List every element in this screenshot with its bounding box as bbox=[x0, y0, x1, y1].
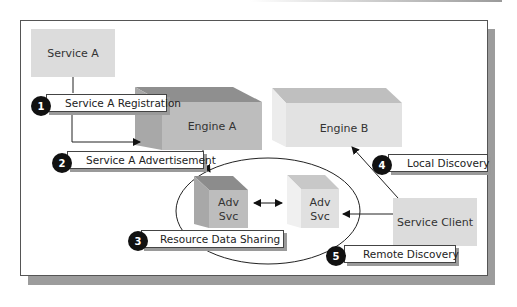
service-client-label: Service Client bbox=[397, 216, 473, 229]
step-3-label: Resource Data Sharing bbox=[160, 233, 280, 245]
engine-b-label[interactable]: Engine B bbox=[286, 122, 402, 136]
adv-svc-b-line1: Adv bbox=[301, 196, 339, 210]
service-a-box[interactable]: Service A bbox=[31, 29, 115, 77]
step-3-badge: 3 bbox=[128, 231, 148, 251]
adv-svc-a-line2: Svc bbox=[209, 210, 248, 224]
step-5-callout[interactable]: Remote Discovery bbox=[344, 245, 456, 263]
step-2-badge: 2 bbox=[52, 153, 72, 173]
step-4-callout[interactable]: Local Discovery bbox=[388, 154, 488, 172]
step-5-badge: 5 bbox=[326, 246, 346, 266]
engine-b-cube bbox=[272, 88, 402, 147]
step-1-badge: 1 bbox=[31, 96, 51, 116]
step-2-callout[interactable]: Service A Advertisement bbox=[67, 151, 204, 169]
step-5-label: Remote Discovery bbox=[363, 248, 459, 260]
step-3-callout[interactable]: Resource Data Sharing bbox=[141, 230, 284, 248]
step-1-label: Service A Registration bbox=[65, 97, 181, 109]
step-4-badge: 4 bbox=[372, 155, 392, 175]
engine-a-label[interactable]: Engine A bbox=[162, 120, 262, 134]
adv-svc-a-line1: Adv bbox=[209, 196, 248, 210]
step-4-label: Local Discovery bbox=[407, 157, 489, 169]
registration-to-engine-a bbox=[72, 112, 140, 142]
service-a-label: Service A bbox=[47, 47, 99, 60]
step-1-callout[interactable]: Service A Registration bbox=[46, 94, 167, 112]
adv-svc-b-line2: Svc bbox=[301, 210, 339, 224]
adv-svc-b-label[interactable]: Adv Svc bbox=[301, 196, 339, 224]
service-client-box[interactable]: Service Client bbox=[393, 198, 477, 246]
step-2-label: Service A Advertisement bbox=[86, 154, 216, 166]
adv-svc-a-label[interactable]: Adv Svc bbox=[209, 196, 248, 224]
